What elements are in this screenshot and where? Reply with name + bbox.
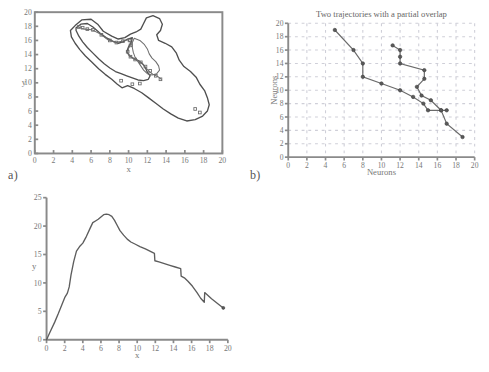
panel-a-data-layer [70, 16, 209, 121]
panel-b-ytick-2: 2 [280, 139, 284, 148]
panel-a-ytick-8: 8 [28, 92, 32, 101]
panel-b-xtick-2: 2 [305, 161, 309, 170]
panel-c-xtick-18: 18 [206, 344, 214, 353]
panel-b-trajectory-2-point-1 [398, 48, 401, 51]
panel-a-marker-15 [149, 69, 152, 72]
panel-b-trajectory-1-point-3 [361, 75, 364, 78]
panel-c-plot: 0510152025 02468101214161820 y x [0, 185, 245, 372]
panel-b-ytick-6: 6 [280, 113, 284, 122]
panel-c-ytick-0: 0 [38, 335, 42, 344]
panel-a-marker-8 [128, 39, 131, 42]
panel-b-trajectory-1-point-7 [422, 102, 425, 105]
panel-b-trajectory-1-point-11 [461, 135, 464, 138]
panel-b-xtick-6: 6 [342, 161, 346, 170]
panel-b-trajectory-2-point-10 [445, 109, 448, 112]
panel-c-xtick-16: 16 [188, 344, 196, 353]
panel-b-trajectory-1-point-2 [361, 62, 364, 65]
panel-b-xtick-8: 8 [361, 161, 365, 170]
panel-c-ytick-15: 15 [34, 250, 42, 259]
panel-a-ytick-20: 20 [24, 8, 32, 17]
panel-a-xtick-14: 14 [162, 156, 170, 165]
panel-c-xtick-4: 4 [81, 344, 85, 353]
panel-a-xtick-18: 18 [200, 156, 208, 165]
panel-b-xlabel: Neurons [367, 167, 397, 177]
panel-b-trajectory-1-point-5 [398, 88, 401, 91]
panel-c-xtick-20: 20 [224, 344, 232, 353]
panel-b-trajectory-1-point-6 [411, 95, 414, 98]
panel-b-trajectory-2-point-8 [429, 99, 432, 102]
panel-b-trajectory-2-point-5 [423, 77, 426, 80]
panel-a-xtick-12: 12 [143, 156, 151, 165]
panel-b-trajectory-1-line [335, 30, 463, 137]
panel-a-label: a) [8, 168, 18, 183]
panel-a-marker-19 [131, 83, 134, 86]
panel-b-xtick-14: 14 [415, 161, 423, 170]
panel-a-ytick-0: 0 [28, 149, 32, 158]
panel-b-gridlines [288, 23, 474, 157]
panel-c: 0510152025 02468101214161820 y x c) [0, 185, 245, 372]
panel-b-ytick-18: 18 [276, 32, 284, 41]
panel-b-xtick-18: 18 [452, 161, 460, 170]
panel-a-ytick-18: 18 [24, 22, 32, 31]
panel-b-ytick-14: 14 [276, 59, 284, 68]
panel-a-xtick-20: 20 [218, 156, 226, 165]
panel-a-marker-20 [139, 82, 142, 85]
panel-b-trajectory-1-point-0 [333, 28, 336, 31]
panel-b-trajectory-2-point-6 [415, 85, 418, 88]
panel-a-xtick-0: 0 [33, 156, 37, 165]
panel-a-xlabel: x [126, 164, 131, 174]
panel-b-trajectory-1-point-8 [426, 109, 429, 112]
panel-a-ytick-12: 12 [24, 64, 32, 73]
panel-c-endpoint [222, 306, 225, 309]
panel-c-ytick-25: 25 [34, 193, 42, 202]
panel-b-label: b) [250, 168, 261, 183]
panel-a-marker-18 [120, 79, 123, 82]
panel-b-ytick-20: 20 [276, 19, 284, 28]
panel-c-curve [47, 214, 224, 340]
panel-c-xtick-14: 14 [170, 344, 178, 353]
panel-b-xtick-20: 20 [471, 161, 479, 170]
panel-a-xtick-4: 4 [70, 156, 74, 165]
panel-b-trajectory-2-point-4 [423, 68, 426, 71]
panel-c-ylabel: y [32, 261, 37, 271]
panel-c-ytick-5: 5 [38, 307, 42, 316]
panel-b-trajectory-2-point-7 [420, 94, 423, 97]
panel-a-ytick-4: 4 [28, 121, 32, 130]
panel-a-plot: 0 2 4 6 8 10 12 14 16 18 20 y 0 [0, 0, 245, 190]
panel-b-ylabel: Neurons [269, 75, 279, 105]
panel-b-xtick-0: 0 [286, 161, 290, 170]
panel-b-xtick-4: 4 [324, 161, 328, 170]
panel-c-data-layer [47, 214, 225, 340]
panel-a-ytick-6: 6 [28, 107, 32, 116]
panel-a-ylabel: y [22, 77, 27, 87]
panel-a: 0 2 4 6 8 10 12 14 16 18 20 y 0 [0, 0, 245, 190]
panel-b-xtick-12: 12 [396, 161, 404, 170]
panel-a-inner-contour-1 [76, 23, 150, 80]
panel-a-xtick-8: 8 [108, 156, 112, 165]
panel-a-marker-22 [199, 111, 202, 114]
panel-b-title: Two trajectories with a partial overlap [316, 9, 447, 19]
panel-a-xtick-6: 6 [89, 156, 93, 165]
panel-b-trajectory-1-point-10 [445, 122, 448, 125]
panel-b-plot: Two trajectories with a partial overlap … [250, 0, 489, 190]
panel-b-xtick-16: 16 [434, 161, 442, 170]
panel-b: Two trajectories with a partial overlap … [250, 0, 489, 190]
panel-b-data-layer [333, 28, 464, 139]
panel-b-ytick-8: 8 [280, 99, 284, 108]
panel-a-marker-21 [194, 108, 197, 111]
panel-c-ytick-10: 10 [34, 279, 42, 288]
panel-b-trajectory-2-point-2 [398, 55, 401, 58]
panel-b-ytick-16: 16 [276, 46, 284, 55]
panel-a-ytick-16: 16 [24, 36, 32, 45]
panel-b-trajectory-1-point-1 [352, 48, 355, 51]
panel-c-xtick-2: 2 [63, 344, 67, 353]
panel-c-xtick-0: 0 [45, 344, 49, 353]
panel-b-ytick-4: 4 [280, 126, 284, 135]
panel-a-xtick-2: 2 [52, 156, 56, 165]
panel-a-frame [35, 12, 223, 153]
panel-a-ytick-2: 2 [28, 135, 32, 144]
panel-b-trajectory-2-point-9 [439, 109, 442, 112]
panel-c-xtick-6: 6 [99, 344, 103, 353]
panel-a-ytick-14: 14 [24, 50, 32, 59]
panel-b-trajectory-2-point-0 [391, 44, 394, 47]
